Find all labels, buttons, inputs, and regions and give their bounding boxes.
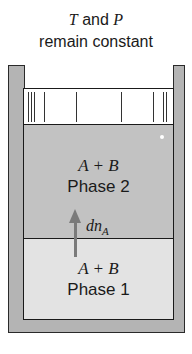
phase-1-region: A + B Phase 1: [24, 239, 173, 319]
phase-2-region: A + B Phase 2 dnA: [24, 125, 173, 239]
title-line-1: T and P: [0, 11, 192, 29]
phase-2-label: Phase 2: [24, 177, 173, 197]
phase-1-label: Phase 1: [24, 280, 173, 300]
highlight-dot: [160, 135, 164, 139]
piston: [24, 89, 173, 125]
transfer-label: dnA: [86, 217, 109, 237]
title-line-2: remain constant: [0, 33, 192, 51]
phase-2-species: A + B: [24, 156, 173, 176]
phase-1-species: A + B: [24, 259, 173, 279]
cylinder-opening: [24, 65, 174, 89]
cylinder-interior: A + B Phase 2 dnA A + B Phase 1: [23, 88, 174, 320]
pressure-symbol: P: [113, 11, 123, 28]
temperature-symbol: T: [69, 11, 78, 28]
